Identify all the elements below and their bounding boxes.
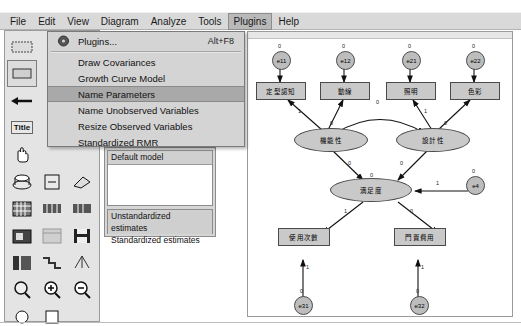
path-label-disturbance: 1: [436, 180, 439, 186]
tool-select-data-file[interactable]: [7, 222, 37, 249]
tool-reflect-indicators[interactable]: [37, 195, 67, 222]
path-diagram-canvas[interactable]: e11 0 e12 0 e21 0 e22 0 1 1 1 1 定型認知 動線 …: [247, 31, 513, 317]
loupe-icon: [12, 280, 32, 300]
gear-icon: [58, 36, 69, 47]
observed-node-label: 使用次數: [289, 232, 318, 242]
zoom-in-icon: [42, 280, 62, 300]
tool-hand-select[interactable]: [7, 141, 37, 168]
error-node-e4[interactable]: e4: [466, 176, 485, 195]
latent-node-label: 満足度: [360, 185, 382, 195]
error-node-label: e12: [340, 58, 350, 64]
latent-node-3[interactable]: 満足度: [330, 178, 412, 202]
tool-rectangle[interactable]: [7, 33, 37, 60]
object-properties-icon: [11, 254, 33, 272]
menu-bar: File Edit View Diagram Analyze Tools Plu…: [0, 12, 521, 30]
path-label-covariance: 0: [376, 99, 379, 105]
estimates-option-standardized[interactable]: Standardized estimates: [108, 234, 212, 246]
single-arrow-icon: [10, 94, 34, 108]
menu-item-analyze[interactable]: Analyze: [145, 13, 193, 30]
model-estimates-panel: Default model Unstandardized estimates S…: [104, 147, 216, 237]
window-bottom-divider: [0, 322, 521, 323]
latent-node-2[interactable]: 設計性: [396, 128, 470, 152]
error-node-e32[interactable]: e32: [410, 296, 429, 315]
tool-preserve-symmetries[interactable]: [67, 249, 97, 276]
tool-rectangle-solid[interactable]: [7, 60, 37, 87]
analysis-properties-icon: [41, 227, 63, 245]
estimates-list[interactable]: Unstandardized estimates Standardized es…: [107, 209, 213, 234]
tool-zoom-in[interactable]: [37, 276, 67, 303]
menu-item-diagram[interactable]: Diagram: [95, 13, 145, 30]
tool-erase[interactable]: [67, 168, 97, 195]
tool-save-diagram[interactable]: [67, 222, 97, 249]
menu-option-plugins[interactable]: Plugins... Alt+F8: [48, 32, 244, 50]
error-variance-label-e4: 0: [472, 168, 475, 174]
latent-node-1[interactable]: 機能性: [294, 128, 368, 152]
error-node-label: e21: [406, 58, 416, 64]
path-label-e31-loading: 1: [306, 264, 309, 270]
tool-zoom-out[interactable]: [67, 276, 97, 303]
estimates-option-unstandardized[interactable]: Unstandardized estimates: [108, 210, 212, 234]
menu-item-view[interactable]: View: [61, 13, 95, 30]
menu-item-edit[interactable]: Edit: [32, 13, 61, 30]
model-list[interactable]: Default model: [107, 150, 213, 206]
tool-move[interactable]: [37, 168, 67, 195]
reflect-indicators-icon: [41, 200, 63, 218]
observed-node-4[interactable]: 色彩: [450, 82, 500, 100]
preserve-symmetries-icon: [71, 254, 93, 272]
error-node-e22[interactable]: e22: [466, 51, 485, 70]
observed-node-3[interactable]: 照明: [386, 82, 436, 100]
error-node-e31[interactable]: e31: [294, 296, 313, 315]
path-label-loading-2: 0: [330, 120, 333, 126]
menu-option-name-unobserved-variables[interactable]: Name Unobserved Variables: [48, 102, 244, 118]
tool-duplicate[interactable]: [7, 168, 37, 195]
menu-option-growth-curve-model[interactable]: Growth Curve Model: [48, 70, 244, 86]
move-object-icon: [42, 172, 62, 192]
drag-properties-icon: [41, 254, 63, 272]
menu-option-resize-observed-variables[interactable]: Resize Observed Variables: [48, 118, 244, 134]
tool-analysis-properties[interactable]: [37, 222, 67, 249]
tool-single-arrow[interactable]: [7, 87, 37, 114]
tool-move-parameter[interactable]: [7, 195, 37, 222]
menu-item-help[interactable]: Help: [272, 13, 305, 30]
observed-node-label: 定型認知: [266, 86, 295, 96]
latent-node-label: 設計性: [422, 135, 444, 145]
observed-node-label: 門置費用: [405, 232, 434, 242]
error-node-e21[interactable]: e21: [402, 51, 421, 70]
menu-item-file[interactable]: File: [4, 13, 32, 30]
model-list-item-default[interactable]: Default model: [108, 151, 212, 165]
path-label-structural-2: 0: [400, 160, 403, 166]
data-file-icon: [11, 227, 33, 245]
save-diagram-icon: [72, 227, 92, 245]
tool-title[interactable]: Title: [7, 114, 37, 141]
move-parameter-icon: [11, 200, 33, 218]
tool-loupe[interactable]: [7, 276, 37, 303]
tool-object-properties[interactable]: [7, 249, 37, 276]
tool-rotate-indicators[interactable]: [67, 195, 97, 222]
error-variance-label-e12: 0: [342, 43, 345, 49]
observed-node-1[interactable]: 定型認知: [256, 82, 306, 100]
plugins-dropdown-menu: Plugins... Alt+F8 Draw Covariances Growt…: [47, 31, 245, 147]
observed-node-label: 照明: [404, 86, 419, 96]
menu-item-tools[interactable]: Tools: [192, 13, 227, 30]
path-label-structural-1: 0: [348, 160, 351, 166]
observed-node-6[interactable]: 門置費用: [394, 228, 446, 246]
menu-option-name-parameters[interactable]: Name Parameters: [48, 86, 244, 102]
observed-node-2[interactable]: 動線: [320, 82, 370, 100]
duplicate-object-icon: [11, 172, 33, 192]
observed-node-5[interactable]: 使用次數: [278, 228, 330, 246]
tool-drag-properties[interactable]: [37, 249, 67, 276]
menu-option-shortcut: Alt+F8: [208, 36, 234, 46]
error-node-label: e4: [472, 183, 479, 189]
error-node-e12[interactable]: e12: [336, 51, 355, 70]
title-text-icon: Title: [11, 121, 33, 134]
path-label-loading-1: 1: [298, 108, 301, 114]
error-variance-label-e21: 0: [408, 43, 411, 49]
error-variance-label-e31: 0: [300, 288, 303, 294]
menu-item-plugins[interactable]: Plugins: [228, 13, 273, 30]
path-label-loading-4: 0: [444, 120, 447, 126]
error-variance-label-e11: 0: [278, 43, 281, 49]
error-node-e11[interactable]: e11: [272, 51, 291, 70]
error-variance-label-e32: 0: [416, 288, 419, 294]
menu-option-standardized-rmr[interactable]: Standardized RMR: [48, 134, 244, 150]
menu-option-draw-covariances[interactable]: Draw Covariances: [48, 54, 244, 70]
